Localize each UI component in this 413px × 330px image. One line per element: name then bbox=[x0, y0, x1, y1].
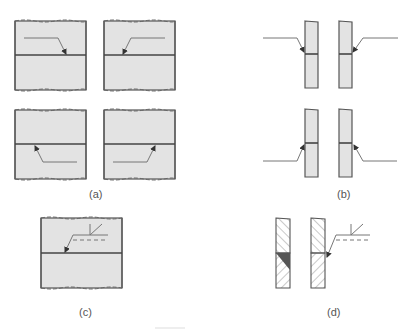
label-c: (c) bbox=[79, 306, 92, 318]
panel-b-top bbox=[263, 21, 398, 88]
label-a: (a) bbox=[89, 188, 102, 200]
panel-c bbox=[41, 217, 122, 289]
panel-a-bottom-right bbox=[104, 109, 175, 180]
label-b: (b) bbox=[337, 188, 350, 200]
weld-symbol-diagram bbox=[0, 0, 413, 330]
panel-a-top-right bbox=[104, 20, 175, 91]
fillet-weld-symbol-d bbox=[351, 224, 363, 235]
label-d: (d) bbox=[327, 306, 340, 318]
panel-a-top-left bbox=[15, 20, 86, 91]
panel-a-bottom-left bbox=[15, 109, 86, 180]
panel-b-bottom bbox=[263, 109, 397, 177]
panel-d bbox=[276, 218, 370, 288]
